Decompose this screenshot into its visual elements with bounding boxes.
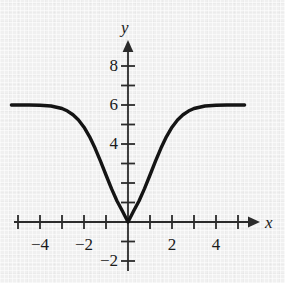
x-tick-label: −4 [29, 236, 51, 253]
y-axis [121, 40, 135, 271]
graph-figure: x y −4−224 864−2 [0, 0, 285, 283]
y-tick-label: 8 [90, 57, 118, 74]
x-tick-label: 4 [205, 236, 227, 253]
x-tick-label: 2 [161, 236, 183, 253]
x-axis [14, 215, 260, 229]
x-axis-arrowhead [248, 217, 260, 228]
x-tick-label: −2 [73, 236, 95, 253]
y-tick-label: −2 [90, 252, 118, 269]
y-axis-arrowhead [123, 40, 134, 52]
x-axis-label: x [265, 214, 273, 231]
y-tick-label: 6 [90, 96, 118, 113]
y-tick-label: 4 [90, 135, 118, 152]
y-axis-label: y [121, 19, 129, 36]
